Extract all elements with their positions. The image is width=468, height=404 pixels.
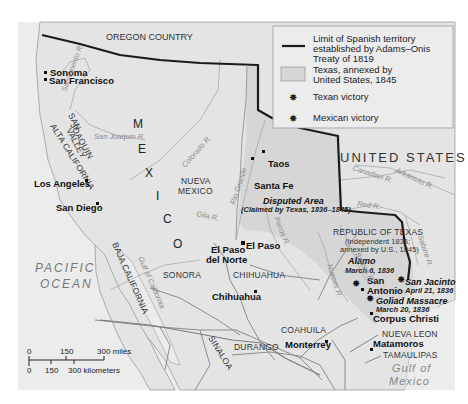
city-dot-santa-fe xyxy=(251,157,254,160)
label-matamoros: Matamoros xyxy=(373,338,424,349)
legend-treaty-line3: Treaty of 1819 xyxy=(313,53,374,64)
mexican-victory-icon: ✸ xyxy=(289,113,297,124)
scale-km-150: 150 xyxy=(45,366,59,375)
alamo-battle-icon: ✸ xyxy=(352,278,360,289)
label-disputed-note: (Claimed by Texas, 1836–1845) xyxy=(241,205,351,214)
scale-km-0: 0 xyxy=(27,366,32,375)
label-monterrey: Monterrey xyxy=(285,339,332,350)
city-dot-san-francisco xyxy=(44,78,47,81)
label-el-paso-del-norte-2: del Norte xyxy=(206,254,247,265)
scale-km-300: 300 kilometers xyxy=(68,366,120,375)
label-pacific-1: PACIFIC xyxy=(35,261,95,275)
mexico-letter-o: O xyxy=(173,237,182,251)
legend-texas-swatch-icon xyxy=(281,67,305,81)
label-coahuila: COAHUILA xyxy=(281,325,326,335)
city-dot-taos xyxy=(262,150,265,153)
label-san-jacinto-date: April 21, 1836 xyxy=(404,286,454,295)
scale-miles-150: 150 xyxy=(60,347,74,356)
city-dot-san-antonio xyxy=(361,288,364,291)
mexico-letter-c: C xyxy=(163,212,172,226)
label-nueva-mexico-2: MEXICO xyxy=(178,186,213,196)
label-chihuahua: CHIHUAHUA xyxy=(233,270,285,280)
label-santa-fe: Santa Fe xyxy=(254,180,294,191)
scale-miles-0: 0 xyxy=(27,347,32,356)
label-taos: Taos xyxy=(268,158,289,169)
label-corpus-christi: Corpus Christi xyxy=(373,313,439,324)
label-republic-of-texas: REPUBLIC OF TEXAS xyxy=(333,227,423,237)
legend-texas-line2: United States, 1845 xyxy=(313,74,396,85)
goliad-battle-icon: ✸ xyxy=(366,293,374,304)
label-san-francisco: San Francisco xyxy=(49,75,114,86)
label-durango: DURANGO xyxy=(234,342,279,352)
label-chihuahua-city: Chihuahua xyxy=(212,291,262,302)
label-gulf-of-mexico-1: Gulf of xyxy=(392,362,431,374)
label-republic-note-2: annexed by U.S., 1845) xyxy=(340,245,419,254)
label-san-joaquin-river: San Joaquin R. xyxy=(94,132,145,141)
texan-victory-icon: ✸ xyxy=(289,92,297,103)
label-gulf-of-mexico-2: Mexico xyxy=(389,375,430,387)
mexico-letter-m: M xyxy=(133,117,143,131)
mexico-letter-x: X xyxy=(145,166,153,180)
label-nueva-mexico-1: NUEVA xyxy=(181,176,211,186)
label-pacific-2: OCEAN xyxy=(40,277,93,291)
city-dot-sonoma xyxy=(44,71,47,74)
label-los-angeles: Los Angeles xyxy=(34,178,90,189)
label-goliad-date: March 20, 1836 xyxy=(376,305,430,314)
mexico-letter-e: E xyxy=(138,142,146,156)
mexico-letter-i: I xyxy=(156,189,159,203)
legend-texan-victory: Texan victory xyxy=(313,91,369,102)
label-united-states: UNITED STATES xyxy=(340,150,467,165)
label-el-paso: El Paso xyxy=(246,240,281,251)
map-canvas: Limit of Spanish territory established b… xyxy=(0,0,468,404)
san-jacinto-battle-icon: ✸ xyxy=(397,274,405,285)
legend-mexican-victory: Mexican victory xyxy=(313,112,379,123)
label-tamaulipas: TAMAULIPAS xyxy=(383,350,438,360)
scale-miles-300: 300 miles xyxy=(97,347,131,356)
legend: Limit of Spanish territory established b… xyxy=(273,26,453,128)
label-san-diego: San Diego xyxy=(56,202,103,213)
label-sonora: SONORA xyxy=(163,270,201,280)
label-oregon-country: OREGON COUNTRY xyxy=(106,32,193,42)
